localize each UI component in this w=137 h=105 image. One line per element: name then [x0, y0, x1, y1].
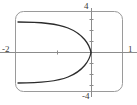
x-axis-left-label: -2 — [2, 45, 10, 54]
parabola-graph-figure: 4 -4 -2 1 — [0, 0, 137, 105]
y-axis-top-label: 4 — [84, 2, 89, 11]
graph-plot-area — [0, 0, 137, 105]
x-axis-right-label: 1 — [128, 45, 133, 54]
y-axis-bottom-label: -4 — [82, 92, 90, 101]
plot-frame — [16, 12, 123, 92]
